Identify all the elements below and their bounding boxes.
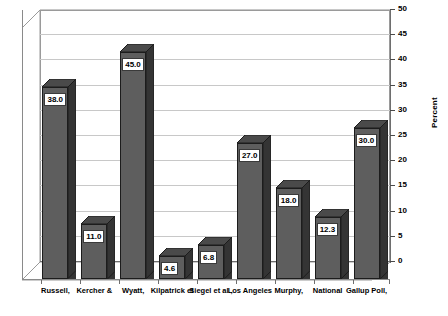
bar-side-face xyxy=(263,135,271,279)
x-axis-tick xyxy=(119,280,120,284)
y-axis-tick xyxy=(390,9,395,10)
bar-side-face xyxy=(107,216,115,279)
bar-value-label: 18.0 xyxy=(278,194,300,207)
y-axis-title: Percent xyxy=(430,97,439,128)
y-axis-tick-label: 20 xyxy=(398,156,407,164)
y-axis-tick xyxy=(390,85,395,86)
x-axis-tick xyxy=(314,280,315,284)
bar-front-face xyxy=(120,52,146,279)
bar-value-label: 11.0 xyxy=(83,230,104,243)
y-axis-tick xyxy=(390,135,395,136)
y-axis-tick xyxy=(390,34,395,35)
y-axis-tick xyxy=(390,110,395,111)
y-axis-tick xyxy=(390,160,395,161)
bar-top-face xyxy=(354,120,388,128)
x-axis-tick xyxy=(353,280,354,284)
bar-value-label: 12.3 xyxy=(317,223,339,236)
bar-value-label: 30.0 xyxy=(356,134,378,147)
y-axis-tick xyxy=(390,59,395,60)
y-axis-tick-label: 15 xyxy=(398,181,407,189)
bar-top-face xyxy=(120,44,154,52)
bar-front-face xyxy=(237,143,263,279)
bars-layer: 38.011.045.04.66.827.018.012.330.0 xyxy=(22,10,390,280)
x-axis-tick xyxy=(80,280,81,284)
y-axis-tick xyxy=(390,185,395,186)
bar-top-face xyxy=(81,216,115,224)
bar-top-face xyxy=(276,180,310,188)
x-axis-labels: Russell,Kercher &Wyatt,Kilpatrick etSieg… xyxy=(0,286,448,302)
y-axis-tick-label: 25 xyxy=(398,131,407,139)
y-axis-tick-label: 50 xyxy=(398,5,407,13)
bar-value-label: 38.0 xyxy=(44,93,66,106)
bar-side-face xyxy=(68,79,76,279)
y-axis-tick-label: 30 xyxy=(398,106,407,114)
bar-side-face xyxy=(341,209,349,279)
bar-value-label: 6.8 xyxy=(200,251,217,264)
x-axis-tick xyxy=(275,280,276,284)
bar-chart: 38.011.045.04.66.827.018.012.330.0 Perce… xyxy=(0,0,448,316)
bar-top-face xyxy=(315,209,349,217)
bar-top-face xyxy=(42,79,76,87)
bar-value-label: 45.0 xyxy=(122,58,144,71)
y-axis: Percent 05101520253035404550 xyxy=(390,10,448,280)
y-axis-tick xyxy=(390,211,395,212)
x-axis-tick xyxy=(389,280,390,284)
bar-front-face xyxy=(42,87,68,279)
bar-top-face xyxy=(237,135,271,143)
bar xyxy=(237,143,263,279)
bar xyxy=(354,128,380,279)
x-axis-tick xyxy=(197,280,198,284)
bar-top-face xyxy=(159,248,193,256)
y-axis-tick xyxy=(390,261,395,262)
y-axis-tick xyxy=(390,236,395,237)
y-axis-line xyxy=(390,10,391,263)
bar-side-face xyxy=(146,44,154,279)
y-axis-tick-label: 40 xyxy=(398,55,407,63)
bar-side-face xyxy=(302,180,310,279)
bar-side-face xyxy=(380,120,388,279)
x-axis-label: Gallup Poll, xyxy=(337,286,397,295)
x-axis-tick xyxy=(41,280,42,284)
x-axis-tick xyxy=(158,280,159,284)
bar xyxy=(120,52,146,279)
y-axis-tick-label: 5 xyxy=(398,232,402,240)
y-axis-tick-label: 10 xyxy=(398,207,407,215)
bar xyxy=(42,87,68,279)
y-axis-tick-label: 35 xyxy=(398,81,407,89)
x-axis-tick xyxy=(236,280,237,284)
y-axis-tick-label: 0 xyxy=(398,257,402,265)
y-axis-tick-label: 45 xyxy=(398,30,407,38)
bar-value-label: 4.6 xyxy=(161,262,178,275)
bar-value-label: 27.0 xyxy=(239,149,261,162)
bar-top-face xyxy=(198,237,232,245)
bar-front-face xyxy=(354,128,380,279)
